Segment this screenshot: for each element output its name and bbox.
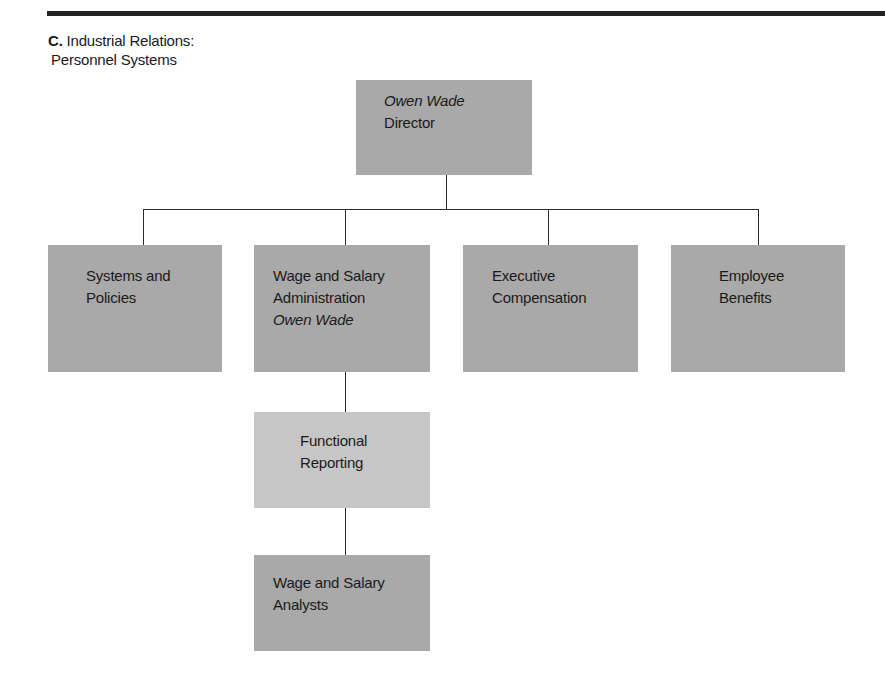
- dept-3-line-1: Executive: [492, 265, 586, 287]
- connector-admin-to-functional: [345, 372, 346, 412]
- director-name: Owen Wade: [384, 90, 464, 112]
- top-rule: [47, 11, 885, 16]
- dept-4-line-2: Benefits: [719, 287, 784, 309]
- connector-director-down: [446, 175, 447, 209]
- dept-employee-benefits-box: Employee Benefits: [671, 245, 845, 372]
- heading-line-2: Personnel Systems: [48, 50, 194, 69]
- heading-line-1: Industrial Relations:: [67, 32, 195, 49]
- section-heading: C. Industrial Relations: Personnel Syste…: [48, 31, 194, 69]
- connector-dept-2: [345, 209, 346, 245]
- connector-horizontal-bar: [143, 209, 759, 210]
- functional-line-1: Functional: [300, 430, 367, 452]
- analysts-line-2: Analysts: [273, 594, 385, 616]
- dept-3-line-2: Compensation: [492, 287, 586, 309]
- connector-dept-1: [143, 209, 144, 245]
- connector-functional-to-analysts: [345, 508, 346, 555]
- dept-wage-salary-admin-box: Wage and Salary Administration Owen Wade: [254, 245, 430, 372]
- functional-reporting-box: Functional Reporting: [254, 412, 430, 508]
- connector-dept-4: [758, 209, 759, 245]
- connector-dept-3: [548, 209, 549, 245]
- dept-2-line-1: Wage and Salary: [273, 265, 385, 287]
- dept-systems-policies-box: Systems and Policies: [48, 245, 222, 372]
- director-box: Owen Wade Director: [356, 80, 532, 175]
- dept-executive-compensation-box: Executive Compensation: [463, 245, 638, 372]
- functional-line-2: Reporting: [300, 452, 367, 474]
- analysts-line-1: Wage and Salary: [273, 572, 385, 594]
- director-title: Director: [384, 112, 464, 134]
- wage-salary-analysts-box: Wage and Salary Analysts: [254, 555, 430, 651]
- dept-4-line-1: Employee: [719, 265, 784, 287]
- section-letter: C.: [48, 32, 63, 49]
- dept-1-line-1: Systems and: [86, 265, 171, 287]
- dept-2-person: Owen Wade: [273, 309, 385, 331]
- dept-2-line-2: Administration: [273, 287, 385, 309]
- dept-1-line-2: Policies: [86, 287, 171, 309]
